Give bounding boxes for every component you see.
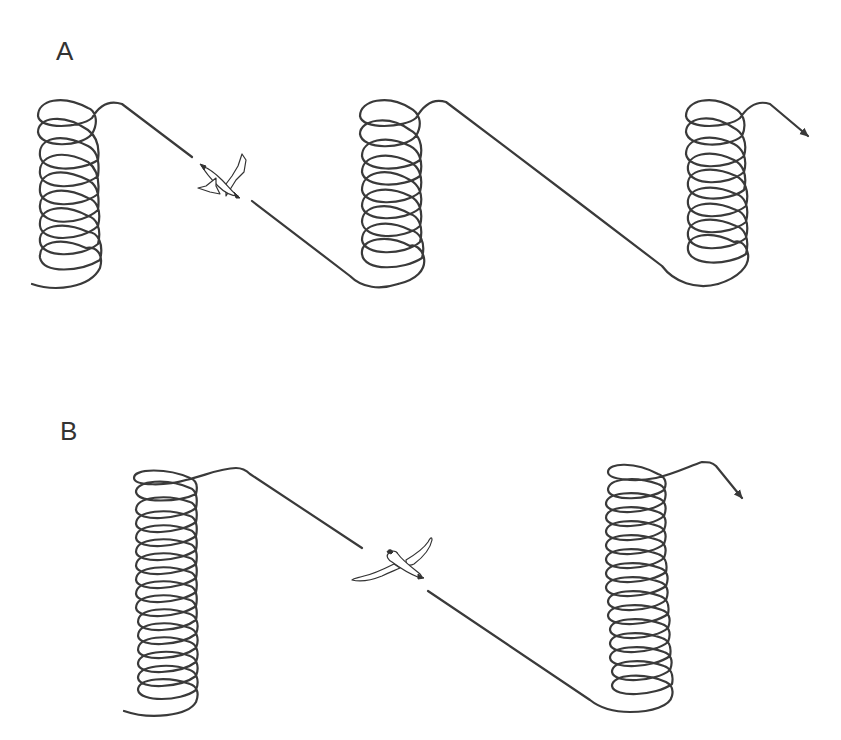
glide-line-b1-b2 bbox=[428, 591, 630, 712]
exit-arrow-b bbox=[606, 462, 742, 712]
thermal-spiral-b1 bbox=[124, 468, 362, 716]
panel-b-diagram bbox=[124, 462, 742, 716]
panel-a-diagram bbox=[32, 100, 808, 288]
thermal-spiral-a1 bbox=[32, 100, 192, 288]
thermal-spiral-a2 bbox=[360, 100, 718, 286]
bird-icon-b bbox=[352, 538, 432, 581]
soaring-flight-diagram bbox=[0, 0, 841, 740]
glide-line-a1-a2 bbox=[252, 201, 398, 287]
thermal-spiral-b2 bbox=[606, 462, 742, 712]
exit-arrow-a bbox=[686, 100, 808, 284]
bird-icon-a bbox=[198, 154, 246, 198]
thermal-spiral-a3 bbox=[686, 100, 808, 284]
